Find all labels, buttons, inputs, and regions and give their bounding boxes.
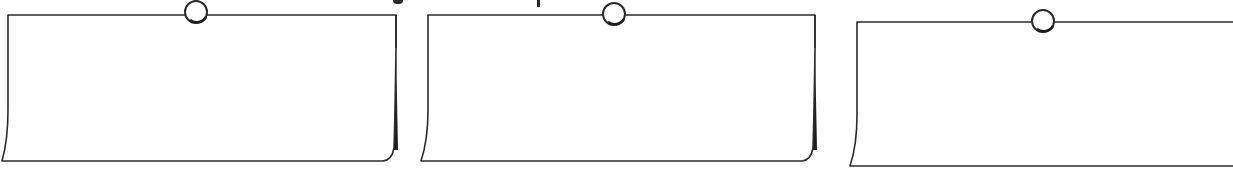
pinned-notes-diagram bbox=[0, 0, 1233, 171]
pin-icon bbox=[0, 0, 1233, 45]
note-card-3 bbox=[0, 0, 1233, 171]
note-card-3-content bbox=[870, 30, 1213, 151]
